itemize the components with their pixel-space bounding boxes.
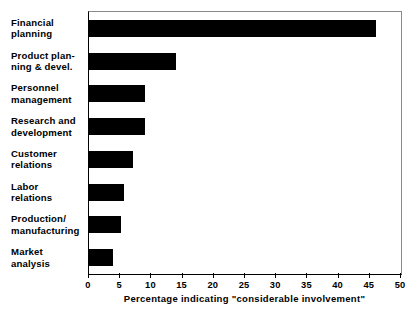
category-label: Labor relations [0,181,85,204]
x-axis-tick [244,273,245,278]
category-label: Production/ manufacturing [0,213,85,236]
bar-series [89,12,401,274]
x-axis-tick-label: 35 [291,280,321,290]
bar [89,216,121,233]
category-label: Product plan- ning & devel. [0,50,85,73]
x-axis-tick-label: 50 [385,280,415,290]
bar [89,184,124,201]
bar [89,85,145,102]
x-axis-tick-label: 0 [73,280,103,290]
x-axis-tick [150,273,151,278]
x-axis-tick-label: 15 [167,280,197,290]
bar [89,53,176,70]
x-axis-tick-label: 10 [135,280,165,290]
bar-chart-figure: Financial planningProduct plan- ning & d… [0,0,418,318]
x-axis-tick [119,273,120,278]
x-axis-tick [213,273,214,278]
category-axis-labels: Financial planningProduct plan- ning & d… [0,12,85,270]
plot-area [88,11,402,275]
x-axis-title: Percentage indicating "considerable invo… [88,293,401,304]
category-label: Research and development [0,115,85,138]
x-axis: Percentage indicating "considerable invo… [88,273,401,318]
x-axis-tick [338,273,339,278]
bar [89,118,145,135]
x-axis-tick [306,273,307,278]
x-axis-tick-label: 30 [260,280,290,290]
bar [89,249,113,266]
category-label: Personnel management [0,82,85,105]
x-axis-tick-label: 20 [198,280,228,290]
category-label: Customer relations [0,148,85,171]
x-axis-tick-label: 25 [229,280,259,290]
x-axis-tick [88,273,89,278]
bar [89,20,376,37]
category-label: Market analysis [0,246,85,269]
x-axis-tick-label: 45 [354,280,384,290]
bar [89,151,133,168]
x-axis-tick-label: 40 [323,280,353,290]
x-axis-tick-label: 5 [104,280,134,290]
category-label: Financial planning [0,17,85,40]
x-axis-tick [275,273,276,278]
x-axis-tick [369,273,370,278]
x-axis-tick [182,273,183,278]
x-axis-tick [400,273,401,278]
